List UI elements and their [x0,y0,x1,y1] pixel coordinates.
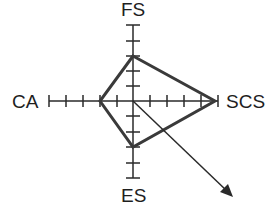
axis-label-ca: CA [12,92,38,111]
arrow-icon [133,101,233,197]
axis-label-es: ES [121,186,146,205]
axis-label-scs: SCS [226,92,265,111]
radar-diagram: FS SCS ES CA [0,0,269,212]
axis-label-fs: FS [121,0,145,19]
